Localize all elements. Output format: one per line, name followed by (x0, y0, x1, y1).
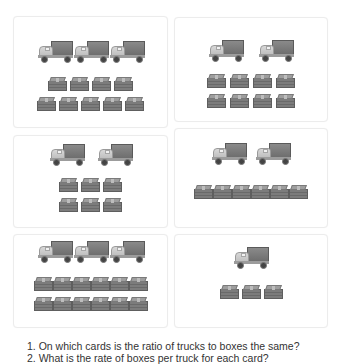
box-icon (92, 77, 111, 91)
box-icon (59, 178, 78, 192)
box-icon (81, 178, 100, 192)
box-row (175, 185, 327, 199)
box-icon (72, 277, 91, 291)
truck-row (14, 241, 167, 263)
box-icon (230, 74, 249, 88)
truck-row (175, 40, 327, 62)
box-icon (264, 285, 283, 299)
card-6 (174, 234, 328, 328)
box-icon (253, 74, 272, 88)
box-icon (114, 77, 133, 91)
card-4 (174, 128, 328, 228)
box-icon (103, 97, 122, 111)
box-icon (251, 185, 270, 199)
box-icon (230, 94, 249, 108)
truck-icon (109, 241, 145, 263)
truck-row (14, 41, 167, 63)
truck-icon (73, 241, 109, 263)
box-icon (91, 277, 110, 291)
box-icon (37, 97, 56, 111)
box-icon (53, 297, 72, 311)
box-icon (34, 297, 53, 311)
box-row (14, 277, 167, 291)
box-icon (103, 198, 122, 212)
box-icon (276, 74, 295, 88)
box-icon (242, 285, 261, 299)
truck-row (175, 247, 327, 269)
box-icon (81, 97, 100, 111)
box-icon (110, 277, 129, 291)
box-icon (194, 185, 213, 199)
box-icon (207, 94, 226, 108)
truck-icon (255, 143, 291, 165)
question-list: 1. On which cards is the ratio of trucks… (27, 340, 300, 364)
box-icon (125, 97, 144, 111)
box-icon (129, 297, 148, 311)
box-row (14, 77, 167, 91)
truck-row (14, 144, 167, 166)
box-row (14, 198, 167, 212)
truck-icon (233, 247, 269, 269)
box-icon (253, 94, 272, 108)
box-icon (270, 185, 289, 199)
card-2 (174, 17, 328, 122)
card-1 (13, 16, 168, 128)
truck-icon (49, 144, 85, 166)
box-icon (48, 77, 67, 91)
box-row (14, 297, 167, 311)
box-icon (289, 185, 308, 199)
box-icon (207, 74, 226, 88)
truck-icon (211, 143, 247, 165)
truck-icon (73, 41, 109, 63)
truck-icon (109, 41, 145, 63)
box-icon (59, 198, 78, 212)
box-icon (110, 297, 129, 311)
box-icon (34, 277, 53, 291)
box-row (14, 97, 167, 111)
box-row (14, 178, 167, 192)
box-row (175, 285, 327, 299)
box-icon (232, 185, 251, 199)
card-5 (13, 234, 168, 328)
box-icon (103, 178, 122, 192)
box-icon (220, 285, 239, 299)
box-icon (213, 185, 232, 199)
box-icon (91, 297, 110, 311)
box-row (175, 94, 327, 108)
card-3 (13, 135, 168, 228)
truck-icon (208, 40, 244, 62)
box-icon (72, 297, 91, 311)
box-icon (70, 77, 89, 91)
box-icon (59, 97, 78, 111)
question-2: 2. What is the rate of boxes per truck f… (27, 352, 300, 364)
box-icon (129, 277, 148, 291)
truck-icon (37, 241, 73, 263)
box-icon (81, 198, 100, 212)
box-icon (276, 94, 295, 108)
truck-row (175, 143, 327, 165)
truck-icon (97, 144, 133, 166)
box-icon (53, 277, 72, 291)
truck-icon (37, 41, 73, 63)
question-1: 1. On which cards is the ratio of trucks… (27, 340, 300, 352)
box-row (175, 74, 327, 88)
truck-icon (258, 40, 294, 62)
